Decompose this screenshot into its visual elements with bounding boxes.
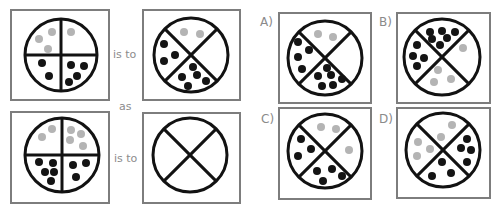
option-b-label[interactable]: B) bbox=[379, 15, 392, 29]
black-dot bbox=[413, 62, 421, 70]
gray-dot bbox=[430, 78, 438, 86]
gray-dot bbox=[67, 28, 75, 36]
black-dot bbox=[338, 75, 346, 83]
question-figure-1 bbox=[11, 10, 109, 100]
gray-dot bbox=[332, 125, 340, 133]
black-dot bbox=[328, 165, 336, 173]
black-dot bbox=[327, 71, 335, 79]
option-a[interactable] bbox=[279, 13, 371, 103]
black-dot bbox=[80, 62, 88, 70]
black-dot bbox=[307, 145, 315, 153]
black-dot bbox=[72, 173, 80, 181]
analogy-puzzle: is to as is to A) B) C) D) bbox=[0, 0, 496, 213]
option-d[interactable] bbox=[397, 108, 490, 198]
black-dot bbox=[294, 152, 302, 160]
gray-dot bbox=[437, 133, 445, 141]
option-b[interactable] bbox=[397, 13, 490, 103]
black-dot bbox=[438, 158, 446, 166]
gray-dot bbox=[459, 44, 467, 52]
gray-dot bbox=[67, 126, 75, 134]
gray-dot bbox=[426, 145, 434, 153]
black-dot bbox=[178, 73, 186, 81]
black-dot bbox=[82, 159, 90, 167]
black-dot bbox=[318, 82, 326, 90]
black-dot bbox=[338, 172, 346, 180]
black-dot bbox=[65, 78, 73, 86]
question-figure-4-blank bbox=[143, 113, 240, 203]
black-dot bbox=[467, 146, 475, 154]
gray-dot bbox=[448, 121, 456, 129]
black-dot bbox=[447, 169, 455, 177]
black-dot bbox=[73, 72, 81, 80]
black-dot bbox=[294, 38, 302, 46]
gray-dot bbox=[413, 152, 421, 160]
gray-dot bbox=[79, 142, 87, 150]
black-dot bbox=[294, 53, 302, 61]
connector-as: as bbox=[119, 100, 132, 113]
panel-frame bbox=[397, 108, 490, 198]
panel-frame bbox=[279, 108, 371, 199]
black-dot bbox=[298, 65, 306, 73]
black-dot bbox=[47, 177, 55, 185]
black-dot bbox=[463, 135, 471, 143]
gray-dot bbox=[44, 45, 52, 53]
black-dot bbox=[189, 63, 197, 71]
black-dot bbox=[184, 82, 192, 90]
black-dot bbox=[463, 158, 471, 166]
black-dot bbox=[160, 57, 168, 65]
black-dot bbox=[457, 144, 465, 152]
black-dot bbox=[202, 77, 210, 85]
black-dot bbox=[443, 34, 451, 42]
black-dot bbox=[35, 158, 43, 166]
black-dot bbox=[171, 51, 179, 59]
black-dot bbox=[436, 41, 444, 49]
black-dot bbox=[313, 167, 321, 175]
black-dot bbox=[428, 35, 436, 43]
black-dot bbox=[67, 61, 75, 69]
black-dot bbox=[451, 28, 459, 36]
black-dot bbox=[438, 27, 446, 35]
gray-dot bbox=[48, 28, 56, 36]
option-c-label[interactable]: C) bbox=[261, 112, 274, 126]
black-dot bbox=[193, 71, 201, 79]
black-dot bbox=[329, 81, 337, 89]
gray-dot bbox=[434, 66, 442, 74]
black-dot bbox=[49, 159, 57, 167]
gray-dot bbox=[317, 123, 325, 131]
black-dot bbox=[297, 135, 305, 143]
gray-dot bbox=[314, 30, 322, 38]
black-dot bbox=[420, 54, 428, 62]
gray-dot bbox=[180, 28, 188, 36]
connector-is-to-top: is to bbox=[113, 48, 137, 61]
gray-dot bbox=[345, 146, 353, 154]
option-a-label[interactable]: A) bbox=[260, 15, 273, 29]
gray-dot bbox=[66, 136, 74, 144]
black-dot bbox=[319, 177, 327, 185]
black-dot bbox=[38, 59, 46, 67]
black-dot bbox=[413, 41, 421, 49]
gray-dot bbox=[196, 30, 204, 38]
black-dot bbox=[69, 161, 77, 169]
black-dot bbox=[305, 46, 313, 54]
option-c[interactable] bbox=[279, 108, 371, 199]
connector-is-to-bottom: is to bbox=[114, 152, 138, 165]
black-dot bbox=[314, 72, 322, 80]
gray-dot bbox=[329, 33, 337, 41]
gray-dot bbox=[414, 138, 422, 146]
gray-dot bbox=[35, 35, 43, 43]
black-dot bbox=[50, 168, 58, 176]
gray-dot bbox=[38, 133, 46, 141]
black-dot bbox=[323, 64, 331, 72]
question-figure-3 bbox=[11, 112, 109, 203]
black-dot bbox=[45, 72, 53, 80]
gray-dot bbox=[48, 125, 56, 133]
question-figure-2 bbox=[143, 10, 240, 100]
black-dot bbox=[426, 28, 434, 36]
black-dot bbox=[428, 172, 436, 180]
gray-dot bbox=[447, 75, 455, 83]
option-d-label[interactable]: D) bbox=[379, 112, 393, 126]
gray-dot bbox=[77, 130, 85, 138]
black-dot bbox=[41, 168, 49, 176]
black-dot bbox=[409, 52, 417, 60]
black-dot bbox=[160, 40, 168, 48]
